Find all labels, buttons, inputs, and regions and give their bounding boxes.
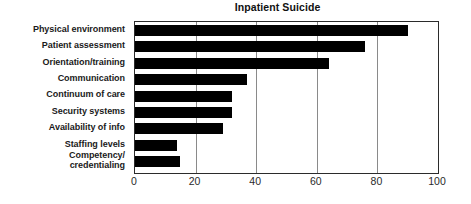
bar bbox=[135, 91, 232, 102]
bar bbox=[135, 41, 365, 52]
category-label: Competency/ credentialing bbox=[69, 151, 125, 170]
bar bbox=[135, 74, 247, 85]
x-tick-label: 80 bbox=[371, 175, 383, 187]
bar bbox=[135, 123, 223, 134]
x-tick-label: 100 bbox=[428, 175, 446, 187]
x-tick-label: 60 bbox=[310, 175, 322, 187]
category-axis-labels: Physical environmentPatient assessmentOr… bbox=[0, 21, 129, 172]
plot-area bbox=[134, 21, 439, 174]
x-axis-tick-labels: 020406080100 bbox=[134, 175, 437, 191]
category-label: Communication bbox=[58, 74, 125, 84]
x-tick-label: 20 bbox=[189, 175, 201, 187]
chart-screenshot: Inpatient Suicide Physical environmentPa… bbox=[0, 0, 471, 204]
x-tick-label: 0 bbox=[131, 175, 137, 187]
bar bbox=[135, 140, 177, 151]
bar bbox=[135, 25, 408, 36]
category-label: Availability of info bbox=[49, 123, 125, 133]
gridline bbox=[377, 22, 378, 173]
category-label: Continuum of care bbox=[46, 90, 125, 100]
bar bbox=[135, 107, 232, 118]
bar bbox=[135, 156, 180, 167]
category-label: Physical environment bbox=[33, 25, 125, 35]
bar bbox=[135, 58, 329, 69]
chart-title: Inpatient Suicide bbox=[0, 1, 471, 13]
category-label: Orientation/training bbox=[42, 58, 125, 68]
category-label: Patient assessment bbox=[42, 41, 125, 51]
category-label: Staffing levels bbox=[65, 140, 125, 150]
category-label: Security systems bbox=[52, 107, 125, 117]
x-tick-label: 40 bbox=[249, 175, 261, 187]
